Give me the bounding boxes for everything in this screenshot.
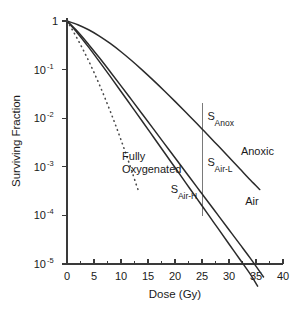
- y-axis-title: Surviving Fraction: [10, 95, 22, 187]
- y-tick-mantissa-0: 1: [52, 15, 58, 27]
- annotation-s-air-h-subscript: Air-H: [178, 191, 197, 201]
- annotation-fully-oxygenated-line2: Oxygenated: [122, 163, 181, 175]
- y-tick-exponent-2: -2: [47, 110, 54, 119]
- x-tick-label-4: 20: [169, 270, 181, 282]
- y-tick-mantissa-5: 10: [34, 258, 46, 270]
- y-tick-mantissa-3: 10: [34, 161, 46, 173]
- x-axis-title: Dose (Gy): [149, 288, 202, 300]
- annotation-s-anox-subscript: Anox: [215, 118, 235, 128]
- annotation-fully-oxygenated-line1: Fully: [122, 150, 146, 162]
- chart-canvas: 110-110-210-310-410-5 0510152025303540 S…: [0, 0, 307, 320]
- y-tick-mantissa-2: 10: [34, 112, 46, 124]
- y-tick-exponent-1: -1: [47, 62, 54, 71]
- survival-curve-figure: 110-110-210-310-410-5 0510152025303540 S…: [0, 0, 307, 320]
- x-tick-label-0: 0: [64, 270, 70, 282]
- y-tick-exponent-3: -3: [47, 159, 54, 168]
- annotation-air: Air: [245, 195, 259, 207]
- annotation-fully-oxygenated-line1-base: Fully: [122, 150, 146, 162]
- y-tick-exponent-4: -4: [47, 207, 54, 216]
- annotation-anoxic: Anoxic: [241, 145, 275, 157]
- annotation-air-base: Air: [245, 195, 259, 207]
- annotation-fully-oxygenated-line2-base: Oxygenated: [122, 163, 181, 175]
- x-tick-label-1: 5: [91, 270, 97, 282]
- x-tick-label-3: 15: [142, 270, 154, 282]
- x-tick-label-2: 10: [115, 270, 127, 282]
- x-tick-label-8: 40: [277, 270, 289, 282]
- y-tick-label-0: 1: [52, 15, 58, 27]
- y-tick-mantissa-1: 10: [34, 64, 46, 76]
- annotation-anoxic-base: Anoxic: [241, 145, 275, 157]
- y-tick-mantissa-4: 10: [34, 209, 46, 221]
- x-tick-label-6: 30: [223, 270, 235, 282]
- y-tick-exponent-5: -5: [47, 256, 54, 265]
- annotation-s-air-l-subscript: Air-L: [215, 164, 233, 174]
- x-tick-label-5: 25: [196, 270, 208, 282]
